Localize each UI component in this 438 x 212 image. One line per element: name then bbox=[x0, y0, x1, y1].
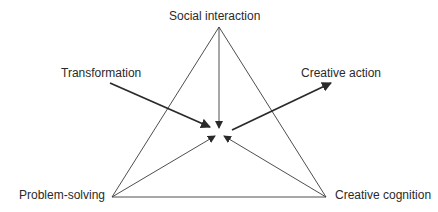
label-creative-cognition: Creative cognition bbox=[335, 188, 431, 202]
label-problem-solving: Problem-solving bbox=[19, 188, 105, 202]
label-social-interaction: Social interaction bbox=[169, 9, 260, 23]
arrow-cognition-to-center bbox=[224, 136, 326, 197]
arrow-creative-action-out bbox=[232, 83, 331, 130]
triangle-diagram bbox=[0, 0, 438, 212]
arrow-problem-to-center bbox=[112, 136, 215, 197]
label-creative-action: Creative action bbox=[301, 66, 381, 80]
label-transformation: Transformation bbox=[61, 66, 141, 80]
